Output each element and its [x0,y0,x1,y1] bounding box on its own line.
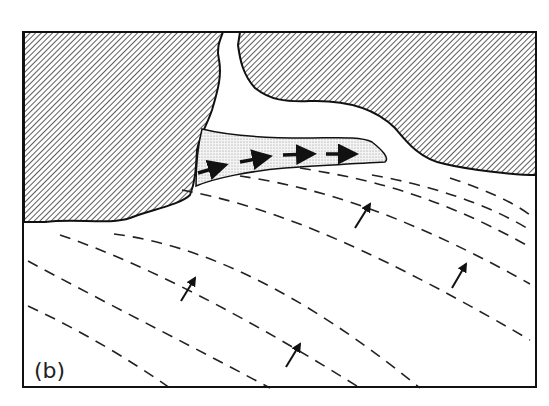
coastal-spit-diagram [0,0,549,406]
wave-direction-arrows [181,204,466,367]
panel-label: (b) [34,358,65,383]
spit [196,129,387,186]
land-left [24,32,223,222]
